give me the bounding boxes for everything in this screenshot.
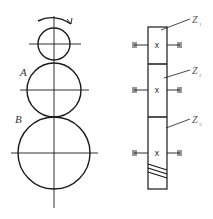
center-mark-z3: x [155, 149, 160, 158]
z1-subscript: 1 [199, 22, 202, 27]
z2-subscript: 2 [199, 73, 202, 78]
rotation-arrow-icon [38, 18, 71, 24]
z1-label: Z [192, 14, 198, 25]
z3-subscript: 3 [199, 122, 202, 127]
front-view [11, 16, 98, 208]
z2-label: Z [192, 65, 198, 76]
leader-lines [161, 19, 190, 128]
center-mark-z2: x [155, 86, 160, 95]
center-mark-z1: x [155, 41, 160, 50]
gear-train-diagram: A B [0, 0, 213, 219]
gear-b-label: B [15, 113, 22, 125]
z3-label: Z [192, 114, 198, 125]
side-view [132, 19, 190, 189]
gear-a-label: A [19, 66, 27, 78]
helical-teeth-hatch [148, 164, 167, 178]
